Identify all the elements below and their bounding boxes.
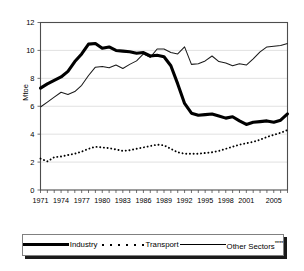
x-tick-label: 1980 <box>94 196 110 205</box>
y-tick-label: 0 <box>30 186 34 195</box>
x-tick-label: 1998 <box>218 196 234 205</box>
chart-legend: Industry Transport Other Sectors**** <box>22 234 284 256</box>
y-tick-label: 4 <box>30 130 34 139</box>
x-tick-label: 1971 <box>33 196 49 205</box>
x-tick-label: 1995 <box>197 196 213 205</box>
y-tick-label: 2 <box>30 158 34 167</box>
x-tick-label: 2001 <box>238 196 254 205</box>
legend-label-transport: Transport <box>146 241 179 249</box>
line-chart: Mtoe 024681012 1971197419771980198319861… <box>0 0 304 271</box>
legend-label-other-sectors-footnote: **** <box>275 240 284 246</box>
y-tick-label: 12 <box>26 18 34 27</box>
legend-swatch-other-sectors-line-icon <box>180 244 226 245</box>
x-tick-label: 1992 <box>177 196 193 205</box>
plot-svg: 024681012 197119741977198019831986198919… <box>0 0 304 215</box>
legend-item-transport: Transport <box>98 241 179 249</box>
gridlines <box>38 23 288 191</box>
x-tick-label: 1974 <box>53 196 69 205</box>
legend-label-other-sectors-text: Other Sectors <box>227 241 275 250</box>
x-tick-label: 1986 <box>135 196 151 205</box>
y-tick-label: 8 <box>30 74 34 83</box>
legend-label-industry: Industry <box>70 241 98 249</box>
legend-item-industry: Industry <box>23 241 98 249</box>
x-tick-label: 1977 <box>74 196 90 205</box>
series-line-other-sectors <box>41 43 288 107</box>
series-line-transport <box>41 130 288 161</box>
x-tick-label: 2005 <box>266 196 282 205</box>
y-tick-label: 10 <box>26 46 34 55</box>
legend-item-other-sectors: Other Sectors**** <box>179 240 284 250</box>
x-tick-label: 1989 <box>156 196 172 205</box>
x-tick-label: 1983 <box>115 196 131 205</box>
legend-label-other-sectors: Other Sectors**** <box>227 240 284 250</box>
y-axis-label: Mtoe <box>21 70 30 116</box>
legend-swatch-industry-line-icon <box>23 243 69 246</box>
data-series-layer <box>41 43 288 161</box>
x-tick-labels: 1971197419771980198319861989199219951998… <box>33 196 282 205</box>
series-line-industry <box>41 43 288 124</box>
legend-swatch-transport-dotted-icon <box>99 244 145 246</box>
plot-area: Mtoe 024681012 1971197419771980198319861… <box>0 0 304 215</box>
y-tick-label: 6 <box>30 102 34 111</box>
